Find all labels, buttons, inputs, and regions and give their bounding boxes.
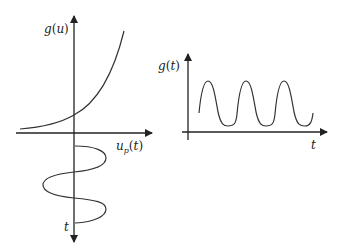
gt-axis-label: g(t): [158, 59, 180, 73]
left-diagram: g(u) up(t) t: [16, 16, 152, 242]
time-axis-label: t: [64, 220, 69, 234]
up-axis-label: up(t): [116, 139, 143, 155]
periodic-output-curve: [199, 81, 313, 126]
diagram-canvas: g(u) up(t) t g(t) t: [0, 0, 337, 251]
gu-axis-label: g(u): [44, 22, 69, 36]
right-diagram: g(t) t: [158, 54, 327, 152]
t-axis-label: t: [311, 138, 316, 152]
exponential-curve: [20, 31, 124, 129]
